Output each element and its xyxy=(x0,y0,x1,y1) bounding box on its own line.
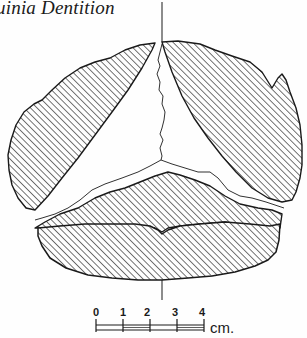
scale-unit-label: cm. xyxy=(210,319,234,336)
scale-label-0: 0 xyxy=(93,306,99,318)
scale-label-4: 4 xyxy=(199,306,206,318)
scale-label-3: 3 xyxy=(172,306,178,318)
lower-hatched-region xyxy=(38,222,280,280)
scale-label-2: 2 xyxy=(144,306,150,318)
scale-label-1: 1 xyxy=(120,306,126,318)
tooth-section-figure: 0 1 2 3 4 cm. xyxy=(0,0,307,338)
document-page: uinia Dentition xyxy=(0,0,307,338)
scale-bar: 0 1 2 3 4 cm. xyxy=(93,306,234,336)
